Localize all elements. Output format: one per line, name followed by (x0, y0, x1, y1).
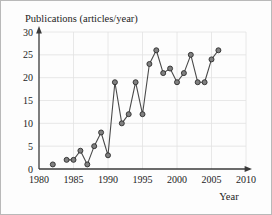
data-point-1998 (161, 71, 166, 76)
x-tick-label-1985: 1985 (64, 174, 84, 185)
data-point-1995 (140, 112, 145, 117)
data-point-1986 (78, 148, 83, 153)
x-tick-label-2000: 2000 (167, 174, 187, 185)
x-tick-label-2005: 2005 (202, 174, 222, 185)
data-point-1997 (154, 48, 159, 53)
data-point-2005 (209, 57, 214, 62)
x-tick-label-1990: 1990 (98, 174, 118, 185)
y-axis-tick-labels: 051015202530 (23, 27, 33, 175)
x-tick-label-1995: 1995 (133, 174, 153, 185)
data-point-1991 (112, 80, 117, 85)
data-point-1996 (147, 61, 152, 66)
publications-series-markers (50, 48, 221, 167)
x-axis-arrow-icon (245, 166, 252, 172)
data-point-1993 (126, 112, 131, 117)
y-tick-label-25: 25 (23, 49, 33, 60)
data-point-2004 (202, 80, 207, 85)
x-axis-tick-labels: 1980198519901995200020052010 (29, 174, 256, 185)
data-point-2003 (195, 80, 200, 85)
data-point-1999 (168, 66, 173, 71)
y-tick-label-0: 0 (28, 164, 33, 175)
chart-figure: Publications (articles/year) 05101520253… (0, 0, 272, 215)
data-point-1990 (106, 153, 111, 158)
publications-line-chart: Publications (articles/year) 05101520253… (1, 1, 272, 215)
x-tick-label-1980: 1980 (29, 174, 49, 185)
data-point-1984 (64, 157, 69, 162)
y-axis-arrow-icon (36, 26, 42, 33)
data-point-2000 (175, 80, 180, 85)
data-point-1988 (92, 144, 97, 149)
y-tick-label-10: 10 (23, 118, 33, 129)
x-tick-label-2010: 2010 (236, 174, 256, 185)
gridlines (39, 32, 246, 169)
chart-title: Publications (articles/year) (25, 13, 138, 25)
y-tick-label-30: 30 (23, 27, 33, 38)
data-point-2001 (181, 71, 186, 76)
y-tick-label-20: 20 (23, 72, 33, 83)
data-point-2006 (216, 48, 221, 53)
data-point-2002 (188, 52, 193, 57)
y-tick-label-15: 15 (23, 95, 33, 106)
data-point-1987 (85, 162, 90, 167)
data-point-1992 (119, 121, 124, 126)
y-tick-label-5: 5 (28, 141, 33, 152)
data-point-1989 (99, 130, 104, 135)
x-axis-label: Year (219, 191, 239, 202)
data-point-1994 (133, 80, 138, 85)
data-point-1985 (71, 157, 76, 162)
data-point-1982 (50, 162, 55, 167)
